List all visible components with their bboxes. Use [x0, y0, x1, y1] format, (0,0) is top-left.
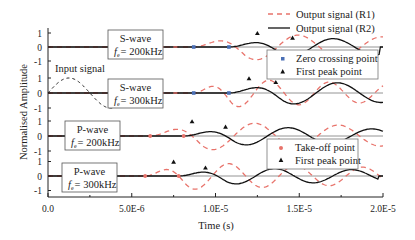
svg-text:Output signal (R1): Output signal (R1) — [296, 9, 375, 21]
x-ticks: 0.05.0E-61.0E-51.5E-52.0E-5 — [42, 193, 396, 214]
legend-output-signals: Output signal (R1) Output signal (R2) — [268, 9, 375, 35]
y-axis-title: Normalised Amplitude — [18, 64, 29, 160]
input-signal-label: Input signal — [55, 63, 105, 74]
take-off-marker — [143, 174, 147, 178]
svg-text:fe= 200kHz: fe= 200kHz — [114, 46, 163, 58]
svg-text:fe= 200kHz: fe= 200kHz — [71, 137, 120, 149]
zero-crossing-marker — [192, 45, 196, 49]
svg-text:Output signal (R2): Output signal (R2) — [296, 23, 375, 35]
take-off-marker — [177, 174, 181, 178]
y-tick-label: 1 — [37, 74, 42, 84]
take-off-marker — [182, 134, 186, 138]
first-peak-marker — [171, 160, 176, 164]
first-peak-marker — [290, 36, 295, 40]
first-peak-marker — [203, 165, 208, 169]
y-tick-label: 0 — [37, 132, 42, 142]
zero-crossing-marker — [192, 91, 196, 95]
first-peak-marker — [247, 76, 252, 80]
svg-text:fe= 300kHz: fe= 300kHz — [68, 179, 117, 191]
zero-crossing-marker — [227, 91, 231, 95]
y-tick-label: -1 — [34, 186, 42, 196]
x-tick-label: 1.0E-5 — [203, 204, 229, 214]
svg-text:S-wave: S-wave — [120, 33, 152, 44]
first-peak-marker — [223, 125, 228, 129]
svg-text:P-wave: P-wave — [77, 124, 109, 135]
y-tick-label: 0 — [37, 43, 42, 53]
svg-text:S-wave: S-wave — [120, 82, 152, 93]
svg-text:First peak point: First peak point — [295, 155, 361, 166]
y-tick-label: 1 — [37, 29, 42, 39]
chart-figure: 0.05.0E-61.0E-51.5E-52.0E-5 10-110-110-1… — [0, 0, 415, 240]
y-tick-label: 1 — [37, 157, 42, 167]
panel-label-s300: S-wave fe= 300kHz — [108, 79, 163, 108]
svg-text:P-wave: P-wave — [74, 166, 106, 177]
y-tick-label: -1 — [34, 147, 42, 157]
y-tick-label: 0 — [37, 172, 42, 182]
first-peak-marker — [255, 31, 260, 35]
legend-s-wave-markers: Zero crossing point First peak point — [267, 50, 378, 79]
y-tick-label: -1 — [34, 57, 42, 67]
svg-text:Take-off point: Take-off point — [295, 142, 355, 153]
svg-text:fe= 300kHz: fe= 300kHz — [114, 95, 163, 107]
take-off-marker — [148, 134, 152, 138]
zero-crossing-marker — [227, 45, 231, 49]
legend-p-wave-markers: Take-off point First peak point — [267, 139, 361, 169]
panel-label-p300: P-wave fe= 300kHz — [62, 163, 117, 192]
first-peak-marker — [190, 119, 195, 123]
panel-label-p200: P-wave fe= 200kHz — [65, 121, 120, 150]
x-axis-title: Time (s) — [198, 220, 234, 232]
svg-text:Zero crossing point: Zero crossing point — [296, 53, 378, 64]
panel-label-s200: S-wave fe= 200kHz — [108, 30, 163, 59]
y-tick-label: 0 — [37, 89, 42, 99]
x-tick-label: 5.0E-6 — [119, 204, 145, 214]
y-tick-label: -1 — [34, 104, 42, 114]
x-tick-label: 1.5E-5 — [286, 204, 312, 214]
x-tick-label: 0.0 — [42, 204, 54, 214]
x-tick-label: 2.0E-5 — [370, 204, 396, 214]
svg-text:First peak point: First peak point — [296, 66, 362, 77]
y-tick-label: 1 — [37, 117, 42, 127]
